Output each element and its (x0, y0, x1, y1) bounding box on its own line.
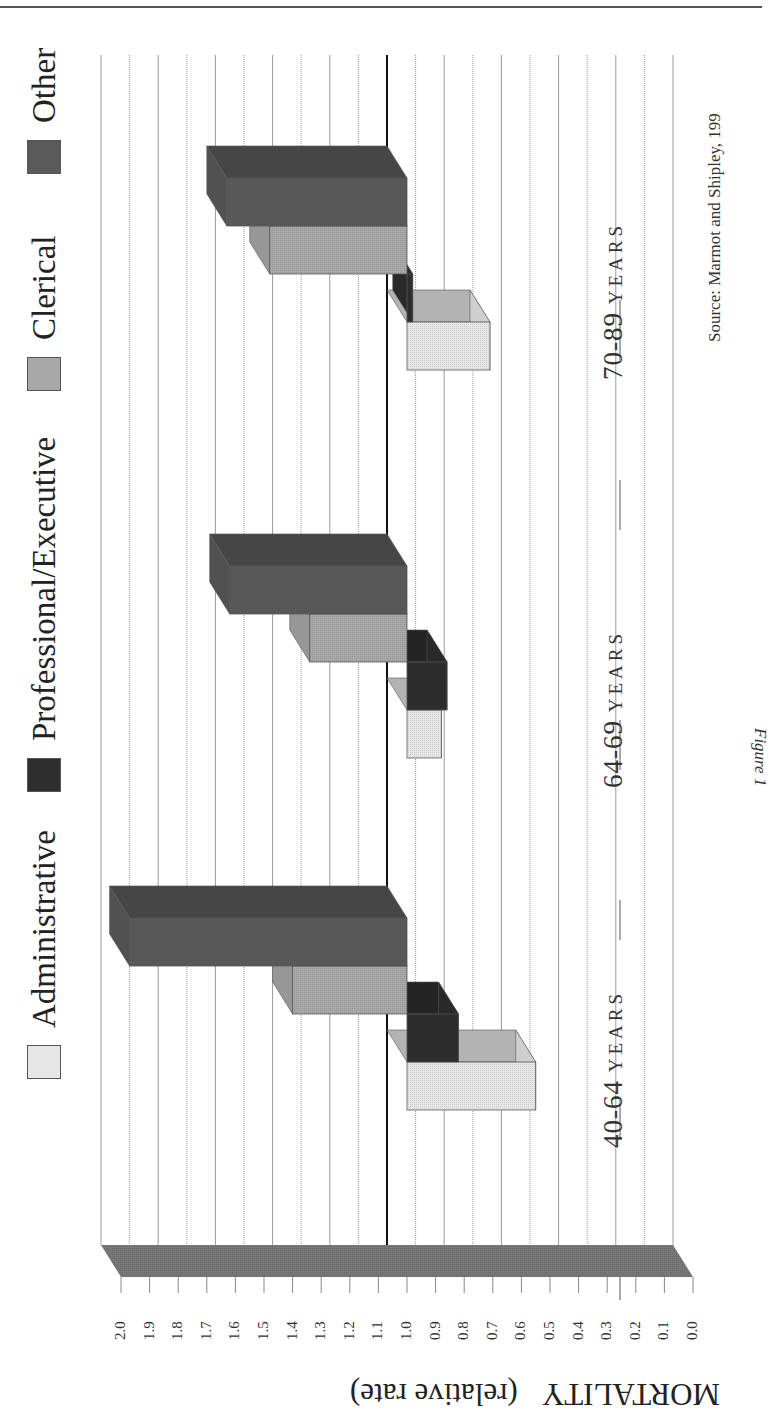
axis-tick-label: 0.4 (570, 1321, 587, 1340)
axis-tick-label: 0.3 (598, 1321, 615, 1340)
category-label-70-89: 70-89 YEARS (598, 222, 629, 380)
axis-tick-label: 0.6 (512, 1321, 529, 1340)
bars (110, 146, 536, 1110)
legend-label-administrative: Administrative (26, 830, 63, 1028)
axis-tick-label: 0.7 (484, 1321, 501, 1340)
axis-tick-label: 0.1 (655, 1321, 672, 1340)
axis-title-main: MORTALITY (542, 1377, 720, 1412)
category-number: 40-64 (598, 1080, 628, 1148)
axis-ticks (121, 1277, 693, 1293)
category-unit: YEARS (605, 222, 626, 304)
axis-tick-label: 0.8 (455, 1321, 472, 1340)
bar-other-1 (210, 534, 407, 614)
axis-tick-label: 1.0 (398, 1321, 415, 1340)
axis-tick-label: 1.1 (369, 1321, 386, 1340)
source-note: Source: Marmot and Shipley, 199 (705, 113, 725, 342)
axis-tick-label: 1.5 (255, 1321, 272, 1340)
category-number: 64-69 (598, 720, 628, 788)
category-label-40-64: 40-64 YEARS (598, 990, 629, 1148)
floor-band (101, 1245, 693, 1277)
category-unit: YEARS (605, 630, 626, 712)
axis-tick-label: 2.0 (112, 1321, 129, 1340)
axis-tick-label: 1.6 (226, 1321, 243, 1340)
category-number: 70-89 (598, 312, 628, 380)
axis-title-sub: (relative rate) (350, 1377, 518, 1412)
legend-label-other: Other (26, 48, 63, 123)
axis-title: MORTALITY (relative rate) (110, 1376, 730, 1412)
legend-swatch-clerical (27, 357, 61, 391)
axis-tick-label: 0.0 (684, 1321, 701, 1340)
category-label-64-69: 64-69 YEARS (598, 630, 629, 788)
axis-tick-label: 1.3 (312, 1321, 329, 1340)
axis-tick-label: 0.5 (541, 1321, 558, 1340)
axis-tick-label: 0.9 (427, 1321, 444, 1340)
figure-caption: Figure 1 (750, 728, 770, 786)
axis-tick-label: 1.4 (284, 1321, 301, 1340)
axis-tick-label: 1.7 (198, 1321, 215, 1340)
legend-label-clerical: Clerical (26, 236, 63, 340)
bar-other-0 (110, 886, 407, 966)
legend-swatch-other (27, 140, 61, 174)
axis-tick-label: 1.9 (141, 1321, 158, 1340)
axis-tick-label: 1.2 (341, 1321, 358, 1340)
axis-tick-label: 1.8 (169, 1321, 186, 1340)
legend-swatch-administrative (27, 1045, 61, 1079)
legend-swatch-professional (27, 758, 61, 792)
bar-other-2 (207, 146, 407, 226)
category-unit: YEARS (605, 990, 626, 1072)
axis-tick-label: 0.2 (627, 1321, 644, 1340)
legend-label-professional: Professional/Executive (26, 437, 63, 741)
